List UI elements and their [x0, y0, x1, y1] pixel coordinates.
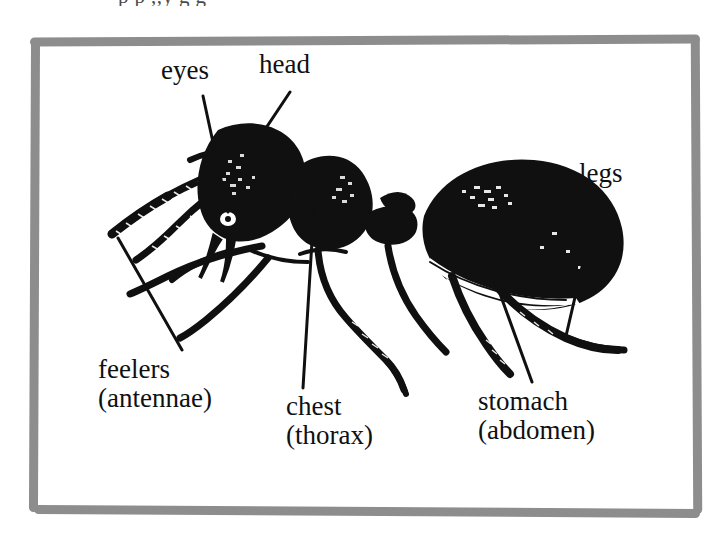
label-eyes: eyes	[161, 56, 209, 85]
label-chest: chest (thorax)	[286, 392, 373, 450]
label-feelers: feelers (antennae)	[98, 355, 212, 413]
leader-lines	[0, 0, 724, 548]
label-head: head	[259, 50, 310, 79]
label-stomach: stomach (abdomen)	[478, 387, 595, 445]
leader-line-stomach	[482, 244, 532, 382]
label-legs-line1: legs	[579, 158, 623, 188]
label-feelers-line1: feelers	[98, 354, 170, 384]
leader-line-head	[250, 92, 290, 152]
label-head-line1: head	[259, 49, 310, 79]
leader-line-eyes	[203, 96, 228, 212]
label-legs: legs	[579, 159, 623, 188]
leader-line-feelers	[118, 238, 182, 350]
leader-line-legs	[566, 198, 598, 336]
label-stomach-line1: stomach	[478, 386, 568, 416]
label-chest-line2: (thorax)	[286, 421, 373, 450]
leader-line-chest	[303, 208, 314, 388]
label-feelers-line2: (antennae)	[98, 384, 212, 413]
ant-anatomy-figure: p p ,,y g g	[0, 0, 724, 548]
label-chest-line1: chest	[286, 391, 341, 421]
label-eyes-line1: eyes	[161, 55, 209, 85]
label-stomach-line2: (abdomen)	[478, 416, 595, 445]
